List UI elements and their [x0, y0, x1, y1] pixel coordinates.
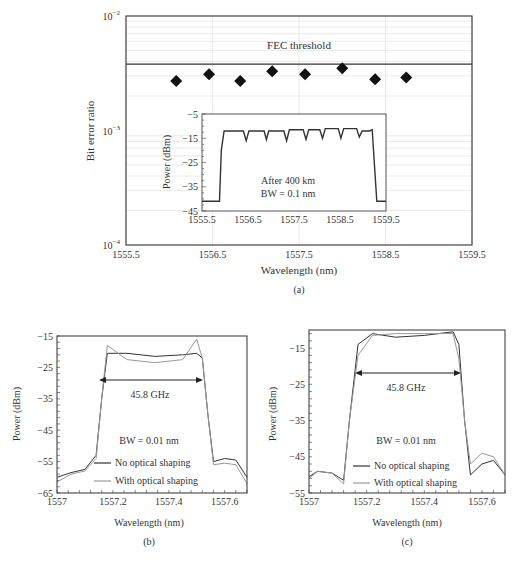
svg-text:−15: −15	[37, 331, 53, 342]
bandwidth-label: 45.8 GHz	[387, 382, 426, 393]
svg-text:−35: −35	[182, 181, 198, 192]
svg-text:1557.5: 1557.5	[280, 214, 308, 225]
svg-text:1557.2: 1557.2	[353, 496, 381, 507]
y-axis-label: Bit error ratio	[84, 100, 96, 161]
x-tick-labels: 15571557.21557.41557.6	[47, 496, 238, 507]
resolution-label: BW = 0.01 nm	[376, 435, 436, 446]
y-axis-label: Power (dBm)	[11, 387, 23, 441]
inset-spectrum-chart: −5−15−25−35−45 1555.51556.51557.51558.51…	[161, 109, 400, 226]
svg-text:−35: −35	[37, 393, 53, 404]
x-axis-label: Wavelength (nm)	[261, 264, 338, 277]
inset-y-axis-label: Power (dBm)	[161, 135, 173, 189]
svg-text:1558.5: 1558.5	[372, 249, 400, 260]
svg-text:1557.6: 1557.6	[211, 496, 239, 507]
svg-text:−25: −25	[289, 379, 305, 390]
svg-text:1557: 1557	[47, 496, 67, 507]
plot-frame	[57, 336, 247, 493]
x-axis-label: Wavelength (nm)	[114, 517, 183, 529]
panel-c-spectrum-chart: 45.8 GHz BW = 0.01 nm No optical shaping…	[267, 330, 505, 548]
panel-caption: (c)	[401, 536, 412, 548]
panel-b-spectrum-chart: 45.8 GHz BW = 0.01 nm No optical shaping…	[11, 331, 247, 549]
svg-text:−55: −55	[37, 456, 53, 467]
svg-text:−25: −25	[182, 157, 198, 168]
bandwidth-arrow	[355, 370, 461, 376]
svg-text:1557.6: 1557.6	[468, 496, 496, 507]
inset-x-tick-labels: 1555.51556.51557.51558.51559.5	[188, 214, 400, 225]
svg-text:10−3: 10−3	[103, 124, 121, 137]
svg-text:1556.5: 1556.5	[234, 214, 262, 225]
svg-text:1555.5: 1555.5	[188, 214, 216, 225]
figure: FEC threshold 10−210−310−4 1555.51556.51…	[0, 0, 516, 568]
svg-text:1559.5: 1559.5	[458, 249, 486, 260]
svg-text:1555.5: 1555.5	[112, 249, 140, 260]
y-axis-label: Power (dBm)	[267, 387, 279, 441]
legend-no-shaping: No optical shaping	[115, 457, 191, 468]
inset-y-tick-labels: −5−15−25−35−45	[182, 109, 198, 217]
x-tick-labels: 1555.51556.51557.51558.51559.5	[112, 249, 486, 260]
y-tick-labels: −15−25−35−45−55−65	[37, 331, 53, 499]
svg-text:1557.5: 1557.5	[285, 249, 313, 260]
svg-text:1557.4: 1557.4	[155, 496, 183, 507]
svg-text:−25: −25	[37, 362, 53, 373]
svg-text:10−2: 10−2	[103, 9, 121, 22]
panel-a-ber-chart: FEC threshold 10−210−310−4 1555.51556.51…	[84, 9, 486, 296]
bandwidth-label: 45.8 GHz	[131, 389, 170, 400]
svg-text:1557.4: 1557.4	[411, 496, 439, 507]
svg-text:−35: −35	[289, 415, 305, 426]
svg-text:−15: −15	[289, 343, 305, 354]
svg-text:−15: −15	[182, 133, 198, 144]
fec-threshold-label: FEC threshold	[267, 39, 331, 51]
y-tick-labels: 10−210−310−4	[103, 9, 121, 251]
x-axis-label: Wavelength (nm)	[372, 517, 441, 529]
svg-text:1558.5: 1558.5	[326, 214, 354, 225]
legend-no-shaping: No optical shaping	[374, 460, 450, 471]
svg-text:1556.5: 1556.5	[199, 249, 227, 260]
svg-text:1557.2: 1557.2	[99, 496, 127, 507]
legend-with-shaping: With optical shaping	[115, 475, 198, 486]
svg-text:−45: −45	[37, 425, 53, 436]
inset-annotation-bandwidth: BW = 0.1 nm	[261, 188, 316, 199]
bandwidth-arrow	[99, 377, 203, 383]
resolution-label: BW = 0.01 nm	[119, 435, 179, 446]
legend-with-shaping: With optical shaping	[374, 477, 457, 488]
inset-annotation-distance: After 400 km	[261, 175, 315, 186]
tick-marks	[57, 336, 247, 493]
svg-text:−5: −5	[187, 109, 198, 120]
y-tick-labels: −15−25−35−45−55	[289, 343, 305, 499]
x-tick-labels: 15571557.21557.41557.6	[299, 496, 496, 507]
no-optical-shaping-line	[309, 332, 505, 481]
svg-text:1557: 1557	[299, 496, 319, 507]
svg-text:−45: −45	[289, 451, 305, 462]
ber-data-points	[170, 62, 412, 87]
panel-caption: (b)	[143, 536, 155, 548]
svg-text:1559.5: 1559.5	[372, 214, 400, 225]
panel-caption: (a)	[293, 284, 304, 296]
